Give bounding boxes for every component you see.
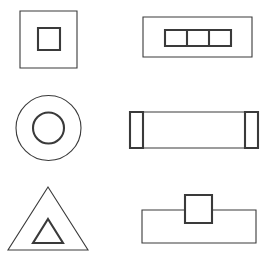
shape-circle-in-circle [16, 96, 81, 161]
inner-segmented-bar [165, 30, 231, 46]
inner-square [38, 28, 60, 50]
end-cap-right [245, 112, 258, 148]
shapes-canvas [0, 0, 274, 269]
shape-capped-bar [130, 112, 258, 148]
shape-segmented-bar-in-rectangle [143, 17, 252, 57]
overlapping-square [185, 195, 212, 223]
inner-circle [33, 113, 64, 144]
bar-body [130, 112, 258, 148]
shape-square-on-rectangle [142, 195, 256, 243]
shape-square-in-square [20, 11, 77, 68]
end-cap-left [130, 112, 143, 148]
figure-sheet [0, 0, 274, 269]
shape-triangle-in-triangle [8, 187, 88, 250]
